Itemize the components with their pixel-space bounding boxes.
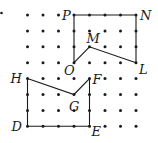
grid-dot bbox=[57, 61, 60, 64]
grid-dot bbox=[119, 93, 122, 96]
grid-dot bbox=[57, 29, 60, 32]
grid-dot bbox=[119, 61, 122, 64]
grid-dot bbox=[73, 125, 76, 128]
grid-dot bbox=[104, 125, 107, 128]
grid-dot bbox=[135, 125, 138, 128]
stray-dot bbox=[0, 12, 3, 15]
grid-dot bbox=[73, 14, 76, 17]
grid-dot bbox=[42, 29, 45, 32]
label-G: G bbox=[69, 99, 79, 114]
grid-dot bbox=[26, 14, 29, 17]
grid-dot bbox=[135, 93, 138, 96]
grid-dot bbox=[57, 125, 60, 128]
label-E: E bbox=[91, 124, 102, 139]
dot-grid-diagram: PNLMOHFGED bbox=[0, 0, 158, 143]
grid-dot bbox=[119, 45, 122, 48]
grid-dot bbox=[26, 125, 29, 128]
grid-dot bbox=[104, 45, 107, 48]
label-L: L bbox=[138, 62, 148, 77]
grid-dot bbox=[73, 45, 76, 48]
diagram-canvas: PNLMOHFGED bbox=[0, 0, 158, 143]
grid-dot bbox=[26, 77, 29, 80]
label-D: D bbox=[11, 119, 23, 134]
grid-dot bbox=[88, 93, 91, 96]
grid-dot bbox=[104, 109, 107, 112]
grid-dot bbox=[73, 93, 76, 96]
grid-dot bbox=[26, 93, 29, 96]
grid-dot bbox=[57, 14, 60, 17]
polygon-PNLMO bbox=[74, 15, 136, 63]
grid-dot bbox=[104, 77, 107, 80]
point-labels: PNLMOHFGED bbox=[10, 8, 153, 139]
grid-dot bbox=[119, 29, 122, 32]
grid-dot bbox=[135, 45, 138, 48]
grid-dot bbox=[88, 61, 91, 64]
grid-dot bbox=[57, 93, 60, 96]
label-H: H bbox=[10, 71, 23, 86]
grid-dot bbox=[119, 77, 122, 80]
grid-dot bbox=[42, 125, 45, 128]
grid-dot bbox=[135, 29, 138, 32]
label-M: M bbox=[86, 31, 101, 46]
label-P: P bbox=[61, 8, 71, 23]
grid-dot bbox=[42, 45, 45, 48]
grid-dot bbox=[26, 45, 29, 48]
grid-dot bbox=[26, 29, 29, 32]
grid-dot bbox=[104, 61, 107, 64]
grid-dot bbox=[42, 77, 45, 80]
polygon-HGFED bbox=[28, 79, 90, 127]
grid-dot bbox=[135, 14, 138, 17]
grid-dot bbox=[88, 109, 91, 112]
grid-dot bbox=[104, 14, 107, 17]
grid-dot bbox=[119, 14, 122, 17]
grid-dot bbox=[57, 109, 60, 112]
label-F: F bbox=[92, 72, 103, 87]
grid-dot bbox=[119, 125, 122, 128]
label-N: N bbox=[139, 8, 152, 23]
grid-dot bbox=[104, 29, 107, 32]
grid-dot bbox=[26, 109, 29, 112]
grid-dot bbox=[88, 77, 91, 80]
grid-dot bbox=[42, 61, 45, 64]
grid-dot bbox=[88, 14, 91, 17]
grid-dot bbox=[73, 29, 76, 32]
grid-dot bbox=[42, 93, 45, 96]
grid-dot bbox=[57, 77, 60, 80]
grid-dot bbox=[42, 14, 45, 17]
label-O: O bbox=[64, 63, 75, 78]
grid-dot bbox=[135, 61, 138, 64]
grid-dot bbox=[57, 45, 60, 48]
grid-dot bbox=[135, 77, 138, 80]
grid-dot bbox=[119, 109, 122, 112]
grid-dot bbox=[42, 109, 45, 112]
grid-dot bbox=[104, 93, 107, 96]
grid-dot bbox=[26, 61, 29, 64]
grid-dot bbox=[135, 109, 138, 112]
